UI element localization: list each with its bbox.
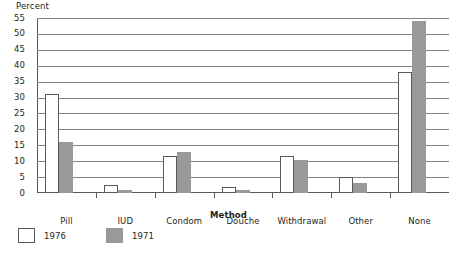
bar-withdrawal-1971 xyxy=(294,160,308,193)
bar-iud-1976 xyxy=(104,185,118,193)
bar-pill-1976 xyxy=(45,94,59,193)
x-tick-4 xyxy=(272,193,273,198)
x-tick-3 xyxy=(214,193,215,198)
bar-none-1971 xyxy=(412,21,426,193)
legend-swatch-1976 xyxy=(18,228,35,243)
y-tick-label-15: 15 xyxy=(0,141,25,150)
y-tick-label-45: 45 xyxy=(0,45,25,54)
legend-item-1976[interactable]: 1976 xyxy=(18,228,66,243)
plot-area: 0510152025303540455055 PillIUDCondomDouc… xyxy=(37,18,449,193)
legend-label-1971: 1971 xyxy=(132,231,154,241)
legend-item-1971[interactable]: 1971 xyxy=(106,228,154,243)
bar-group-none xyxy=(390,18,449,193)
bars-layer xyxy=(37,18,449,193)
x-tick-5 xyxy=(331,193,332,198)
y-tick-label-0: 0 xyxy=(0,189,25,198)
x-axis-title: Method xyxy=(0,210,457,220)
y-tick-label-40: 40 xyxy=(0,61,25,70)
bar-group-withdrawal xyxy=(272,18,331,193)
bar-none-1976 xyxy=(398,72,412,193)
bar-douche-1976 xyxy=(222,187,236,193)
bar-group-iud xyxy=(96,18,155,193)
bar-iud-1971 xyxy=(118,190,132,193)
y-tick-label-35: 35 xyxy=(0,77,25,86)
x-tick-2 xyxy=(155,193,156,198)
bar-chart: Percent 0510152025303540455055 PillIUDCo… xyxy=(0,0,457,256)
y-tick-label-25: 25 xyxy=(0,109,25,118)
legend-swatch-1971 xyxy=(106,228,123,243)
bar-pill-1971 xyxy=(59,142,73,193)
legend-label-1976: 1976 xyxy=(44,231,66,241)
y-tick-label-30: 30 xyxy=(0,93,25,102)
bar-other-1976 xyxy=(339,177,353,193)
bar-condom-1976 xyxy=(163,156,177,193)
y-tick-label-55: 55 xyxy=(0,14,25,23)
bar-group-other xyxy=(331,18,390,193)
y-axis-title: Percent xyxy=(16,1,49,11)
x-tick-6 xyxy=(390,193,391,198)
bar-douche-1971 xyxy=(236,190,250,193)
bar-withdrawal-1976 xyxy=(280,156,294,193)
y-tick-label-5: 5 xyxy=(0,173,25,182)
bar-other-1971 xyxy=(353,183,367,193)
bar-group-condom xyxy=(155,18,214,193)
y-tick-label-50: 50 xyxy=(0,29,25,38)
bar-group-pill xyxy=(37,18,96,193)
bar-condom-1971 xyxy=(177,152,191,193)
legend: 19761971 xyxy=(18,228,154,243)
bar-group-douche xyxy=(214,18,273,193)
y-tick-label-10: 10 xyxy=(0,157,25,166)
x-tick-1 xyxy=(96,193,97,198)
y-tick-label-20: 20 xyxy=(0,125,25,134)
